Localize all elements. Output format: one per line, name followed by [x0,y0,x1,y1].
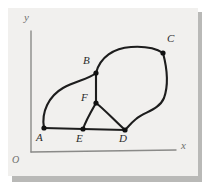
graph-edges [43,47,167,130]
edge-E-D [83,129,125,130]
node-label-D: D [119,133,127,144]
edge-A-B [43,73,96,128]
axis-label-x: x [181,140,186,151]
edge-C-D [125,53,167,130]
node-label-C: C [167,33,174,44]
edge-B-C [96,47,163,73]
node-label-B: B [83,55,90,66]
node-F[interactable] [93,100,98,105]
axis-label-origin: O [12,154,19,165]
x-axis-line [31,150,176,152]
diagram-screenshot: A B C D E F y x O [0,0,206,188]
axis-label-y: y [24,12,29,23]
edge-A-E [44,128,83,129]
node-C[interactable] [160,50,165,55]
node-B[interactable] [93,70,98,75]
graph-figure [0,0,206,188]
edge-F-D [96,103,125,130]
node-label-F: F [81,92,88,103]
edge-E-F [83,103,96,129]
node-A[interactable] [41,125,46,130]
node-label-A: A [36,132,43,143]
node-E[interactable] [80,126,85,131]
graph-nodes [41,50,165,132]
node-label-E: E [76,133,83,144]
